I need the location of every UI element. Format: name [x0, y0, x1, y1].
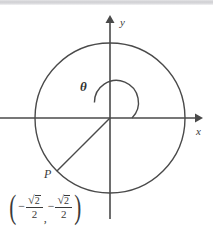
close-paren: ) — [74, 193, 81, 221]
x-axis-arrowhead — [195, 114, 203, 123]
terminal-ray — [57, 118, 110, 171]
radical-sign-icon: √ — [57, 194, 64, 206]
y-minus-sign: − — [48, 200, 56, 212]
y-radicand: 2 — [64, 195, 70, 207]
y-radical: √ 2 — [57, 194, 70, 207]
x-numerator: √ 2 — [26, 194, 43, 208]
x-radical: √ 2 — [28, 194, 41, 207]
coordinate-comma: , — [43, 212, 48, 225]
x-denominator: 2 — [30, 208, 40, 220]
radical-sign-icon: √ — [28, 194, 35, 206]
x-axis-label: x — [196, 126, 201, 137]
x-radicand: 2 — [35, 195, 41, 207]
x-fraction: √ 2 2 — [26, 194, 43, 221]
x-minus-sign: − — [18, 200, 26, 212]
angle-arc — [94, 80, 138, 118]
y-numerator: √ 2 — [55, 194, 72, 208]
open-paren: ( — [9, 193, 16, 221]
y-axis-arrowhead — [106, 15, 115, 23]
point-p-label: P — [44, 168, 51, 180]
y-fraction: √ 2 2 — [55, 194, 72, 221]
theta-angle-label: θ — [80, 80, 87, 93]
unit-circle-figure: y x θ P ( − √ 2 2 , − √ 2 — [0, 0, 213, 235]
point-p-coordinates: ( − √ 2 2 , − √ 2 2 ) — [7, 193, 83, 221]
y-axis-label: y — [120, 17, 125, 28]
y-denominator: 2 — [59, 208, 69, 220]
